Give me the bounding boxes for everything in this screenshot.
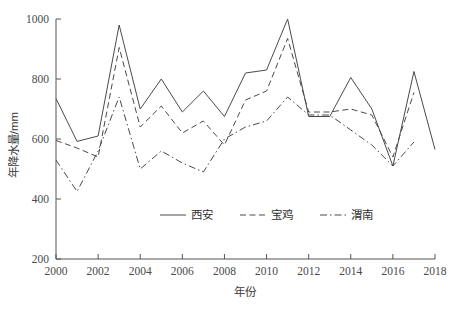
x-tick-label: 2006 (171, 265, 194, 277)
precipitation-line-chart: 2004006008001000 20002002200420062008201… (0, 0, 460, 310)
chart-legend: 西安宝鸡渭南 (160, 208, 373, 221)
legend-label-渭南: 渭南 (351, 208, 373, 221)
y-tick-label: 1000 (26, 13, 49, 25)
x-tick-label: 2014 (339, 265, 362, 277)
x-tick-label: 2012 (297, 265, 320, 277)
y-tick-label: 800 (32, 73, 50, 85)
x-axis-title: 年份 (234, 285, 257, 298)
x-tick-label: 2010 (255, 265, 278, 277)
x-tick-label: 2018 (424, 265, 447, 277)
x-tick-label: 2008 (213, 265, 236, 277)
x-tick-label: 2002 (87, 265, 110, 277)
x-tick-label: 2016 (381, 265, 404, 277)
legend-label-宝鸡: 宝鸡 (271, 208, 293, 221)
legend-label-西安: 西安 (191, 208, 213, 221)
x-axis-tick-group: 2000200220042006200820102012201420162018 (45, 254, 447, 277)
series-group (56, 19, 435, 192)
x-tick-label: 2000 (45, 265, 68, 277)
y-tick-label: 400 (32, 193, 50, 205)
x-tick-label: 2004 (129, 265, 152, 277)
series-line-渭南 (56, 97, 414, 192)
y-tick-label: 600 (32, 133, 50, 145)
chart-canvas: 2004006008001000 20002002200420062008201… (0, 0, 460, 310)
series-line-西安 (56, 19, 435, 166)
y-tick-label: 200 (32, 253, 50, 265)
y-axis-title: 年降水量/mm (7, 112, 20, 178)
series-line-宝鸡 (56, 39, 414, 158)
